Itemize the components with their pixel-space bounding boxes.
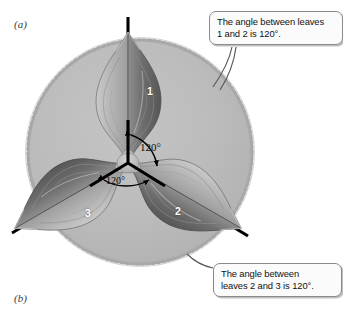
callout-angle-leaves-1-2: The angle between leaves 1 and 2 is 120°…	[209, 11, 343, 45]
angle-label-2-3: 120°	[106, 175, 125, 186]
figure-container: (a) (b) 120° 120° 1 2 3 The angle betwee…	[0, 0, 343, 314]
panel-label-a: (a)	[14, 18, 27, 30]
callout-angle-leaves-2-3: The angle between leaves 2 and 3 is 120°…	[213, 263, 342, 297]
panel-label-b: (b)	[14, 292, 27, 304]
callout-bottom-leader	[187, 254, 213, 268]
angle-label-1-2: 120°	[140, 141, 161, 153]
leaf-number-2: 2	[175, 205, 181, 217]
leaf-number-1: 1	[147, 85, 153, 97]
leaf-number-3: 3	[85, 207, 91, 219]
